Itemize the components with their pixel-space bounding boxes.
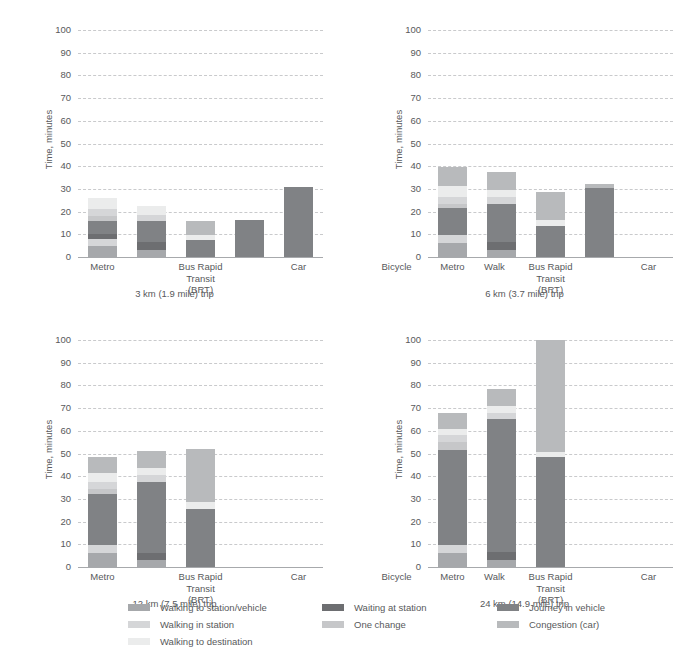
y-tick-label-0: 0: [379, 562, 421, 572]
plot-area-2: 0102030405060708090100MetroBus RapidTran…: [78, 340, 323, 567]
bar-segment: [88, 494, 117, 545]
bar-slot-1: Bus RapidTransit (BRT): [477, 340, 526, 567]
bar-2[interactable]: [536, 192, 565, 257]
legend-label: Walking to station/vehicle: [160, 602, 267, 613]
bar-segment: [88, 457, 117, 473]
y-tick-label-0: 0: [29, 562, 71, 572]
bar-3[interactable]: [585, 184, 614, 257]
bar-segment: [88, 489, 117, 495]
bar-slot-3: Bicycle: [225, 30, 274, 257]
bar-segment: [88, 246, 117, 257]
bar-0[interactable]: [88, 198, 117, 257]
legend-label: Journey in vehicle: [529, 602, 605, 613]
x-tick-label-2: Car: [274, 571, 323, 583]
plot-area-1: 0102030405060708090100MetroBus RapidTran…: [428, 30, 673, 257]
legend-item[interactable]: One change: [322, 617, 427, 631]
bar-segment: [536, 192, 565, 219]
bar-segment: [438, 442, 467, 450]
y-tick-label-20: 20: [29, 207, 71, 217]
x-tick-label-0: Metro: [78, 261, 127, 273]
bar-0[interactable]: [438, 413, 467, 567]
bar-segment: [585, 188, 614, 257]
bar-slot-0: Metro: [428, 30, 477, 257]
bars-group-0: MetroBus RapidTransit (BRT)CarBicycleWal…: [78, 30, 323, 257]
bar-segment: [88, 545, 117, 553]
legend-label: Walking to destination: [160, 636, 253, 647]
y-tick-label-10: 10: [379, 539, 421, 549]
legend-item[interactable]: Walking to station/vehicle: [128, 600, 267, 614]
y-tick-label-100: 100: [29, 25, 71, 35]
bar-segment: [186, 502, 215, 509]
legend-swatch: [128, 621, 150, 628]
bar-segment: [438, 235, 467, 243]
bar-segment: [284, 187, 313, 257]
x-tick-label-2: Car: [274, 261, 323, 273]
bar-2[interactable]: [186, 221, 215, 257]
bar-segment: [487, 560, 516, 567]
bar-segment: [186, 509, 215, 567]
bar-2[interactable]: [536, 340, 565, 567]
bar-slot-4: Walk: [624, 340, 673, 567]
legend-item[interactable]: Walking in station: [128, 617, 267, 631]
bar-0[interactable]: [438, 167, 467, 257]
bar-segment: [438, 553, 467, 567]
bar-segment: [487, 552, 516, 560]
x-tick-label-0: Metro: [78, 571, 127, 583]
bar-segment: [487, 242, 516, 250]
y-tick-label-40: 40: [29, 471, 71, 481]
bar-segment: [137, 250, 166, 257]
y-tick-label-10: 10: [29, 539, 71, 549]
y-tick-label-90: 90: [29, 358, 71, 368]
bar-segment: [536, 452, 565, 457]
axis-line-zero: [428, 257, 673, 258]
bar-1[interactable]: [137, 206, 166, 257]
x-tick-label-2: Car: [624, 571, 673, 583]
y-tick-label-30: 30: [379, 184, 421, 194]
bar-slot-3: Bicycle: [575, 340, 624, 567]
legend-item[interactable]: Walking to destination: [128, 634, 267, 648]
axis-line-zero: [428, 567, 673, 568]
legend-swatch: [128, 604, 150, 611]
bar-segment: [438, 545, 467, 553]
bar-segment: [137, 221, 166, 243]
legend-item[interactable]: Congestion (car): [497, 617, 605, 631]
legend-item[interactable]: Waiting at station: [322, 600, 427, 614]
y-tick-label-80: 80: [379, 70, 421, 80]
bar-1[interactable]: [487, 389, 516, 567]
bar-segment: [88, 198, 117, 209]
y-tick-label-70: 70: [379, 93, 421, 103]
bar-segment: [88, 553, 117, 567]
x-tick-label-0: Metro: [428, 571, 477, 583]
y-tick-label-20: 20: [379, 207, 421, 217]
bar-slot-2: Car: [526, 340, 575, 567]
y-tick-label-80: 80: [29, 70, 71, 80]
bar-segment: [438, 450, 467, 545]
bar-segment: [137, 206, 166, 215]
bar-segment: [438, 186, 467, 197]
y-tick-label-30: 30: [29, 184, 71, 194]
bar-3[interactable]: [235, 220, 264, 257]
legend-column-0: Walking to station/vehicleWalking in sta…: [128, 600, 267, 651]
bar-0[interactable]: [88, 457, 117, 567]
bar-4[interactable]: [284, 187, 313, 257]
bar-segment: [88, 209, 117, 216]
y-tick-label-60: 60: [379, 116, 421, 126]
bar-segment: [88, 482, 117, 489]
bar-segment: [487, 413, 516, 420]
legend-item[interactable]: Journey in vehicle: [497, 600, 605, 614]
bar-2[interactable]: [186, 449, 215, 567]
legend-label: Congestion (car): [529, 619, 599, 630]
bar-slot-2: Car: [526, 30, 575, 257]
bar-segment: [585, 184, 614, 187]
y-tick-label-90: 90: [29, 48, 71, 58]
chart-panel-1: Time, minutes0102030405060708090100Metro…: [350, 0, 699, 310]
y-tick-label-50: 50: [379, 449, 421, 459]
bar-segment: [438, 197, 467, 204]
bar-segment: [487, 406, 516, 413]
bar-segment: [487, 250, 516, 257]
bar-1[interactable]: [137, 451, 166, 567]
y-tick-label-60: 60: [29, 116, 71, 126]
bar-segment: [438, 429, 467, 436]
bar-1[interactable]: [487, 172, 516, 257]
bar-slot-4: Walk: [274, 30, 323, 257]
